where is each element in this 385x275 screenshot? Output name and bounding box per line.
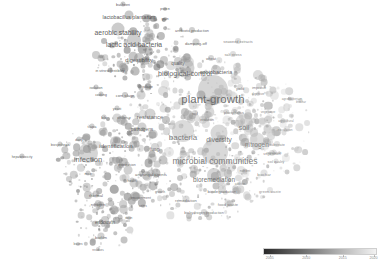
term-label: expression bbox=[118, 164, 135, 168]
term-label: thermal bbox=[89, 194, 103, 198]
term-label: yield bbox=[236, 87, 244, 91]
term-label: remediation bbox=[175, 199, 197, 203]
term-label: in vitro digestibility bbox=[95, 70, 124, 74]
term-label: environment bbox=[131, 197, 151, 201]
term-label: aerobic stability bbox=[95, 30, 142, 37]
term-label: antibiotic production bbox=[175, 30, 209, 34]
term-label: fungi bbox=[150, 148, 160, 153]
term-label: biohydrogen production bbox=[184, 212, 224, 216]
term-label: biological-control bbox=[158, 70, 212, 77]
term-label: microbial communities bbox=[172, 157, 257, 166]
term-label: protein bbox=[160, 8, 170, 11]
term-label: salt stress bbox=[224, 54, 241, 58]
term-label: soil bbox=[239, 124, 250, 131]
term-label: nutrient bbox=[240, 170, 251, 173]
term-label: diversity bbox=[206, 136, 232, 143]
term-label: identification bbox=[99, 143, 132, 149]
term-label: bile bbox=[101, 117, 107, 121]
term-label: lactic acid bacteria bbox=[106, 42, 162, 49]
term-label: regulation bbox=[267, 152, 282, 155]
term-label: toxin bbox=[126, 217, 133, 220]
colorbar-tick-label: 2015 bbox=[339, 256, 347, 260]
term-label: buchneri bbox=[116, 4, 130, 8]
term-label: vegetation bbox=[263, 153, 281, 157]
term-label: pathogens bbox=[131, 128, 153, 133]
term-label: wheat bbox=[206, 58, 216, 62]
term-label: substrate bbox=[269, 144, 285, 148]
term-label: digestive bbox=[252, 93, 265, 96]
term-label: growth bbox=[155, 191, 165, 194]
term-label: cooking bbox=[95, 94, 107, 97]
term-label: dairy bbox=[75, 139, 82, 142]
term-label: soil bbox=[192, 113, 198, 117]
term-label: biochar bbox=[296, 101, 306, 104]
term-label: damping-off bbox=[185, 42, 207, 46]
term-label: azotobacteria bbox=[200, 70, 232, 75]
term-label: mice bbox=[84, 173, 91, 176]
term-label: hepatotoxicity bbox=[12, 156, 33, 159]
term-label: isolation bbox=[89, 87, 102, 91]
colorbar-gradient bbox=[263, 248, 377, 255]
term-label: infection bbox=[74, 156, 102, 164]
term-label: antifungal agents bbox=[135, 173, 167, 177]
term-label: phosphorus bbox=[224, 112, 244, 116]
colorbar-tick-label: 2020 bbox=[370, 256, 378, 260]
term-label: agricultural bbox=[278, 120, 294, 123]
term-label: virulence bbox=[117, 117, 131, 120]
term-label: users bbox=[139, 205, 147, 208]
term-label: improve bbox=[252, 86, 266, 90]
term-label: bacteria bbox=[169, 134, 197, 142]
term-label: yeast bbox=[113, 108, 122, 112]
term-label: silage bbox=[143, 86, 153, 90]
term-label: grain bbox=[161, 18, 168, 21]
term-label: food waste bbox=[218, 203, 238, 207]
term-label: nitrogen bbox=[91, 203, 105, 207]
term-label: health bbox=[127, 180, 136, 183]
term-label: leaves bbox=[73, 243, 82, 246]
term-label: nitrogen bbox=[245, 142, 269, 149]
term-label: agrobacterium bbox=[282, 98, 302, 101]
term-label: tilapia bbox=[88, 126, 97, 129]
term-label: plant-growth bbox=[181, 94, 244, 106]
term-label: lactobacillus plantarum bbox=[103, 15, 156, 20]
term-label: seaweed extracts bbox=[223, 41, 253, 45]
term-label: addition bbox=[235, 183, 246, 186]
term-label: residues bbox=[92, 249, 103, 252]
term-label: biodegradation bbox=[207, 190, 236, 194]
term-label: evolution bbox=[200, 119, 214, 122]
term-label: quality bbox=[171, 62, 184, 67]
term-label: green waste bbox=[259, 190, 281, 194]
term-label: inoculation bbox=[277, 129, 292, 132]
term-label: resistance bbox=[137, 115, 163, 121]
year-colorbar-legend: 2005201020152020 bbox=[263, 248, 377, 268]
label-layer: plant-growthmicrobial communitiesbacteri… bbox=[0, 0, 385, 275]
term-label: bioremediation bbox=[193, 177, 235, 183]
term-label: endotoxin bbox=[95, 221, 115, 226]
term-label: soil quality bbox=[268, 161, 285, 165]
term-label: biochar bbox=[257, 173, 271, 177]
term-label: corn silage bbox=[116, 95, 134, 99]
term-label: biosynthesis bbox=[51, 144, 70, 147]
term-cooccurrence-map: plant-growthmicrobial communitiesbacteri… bbox=[0, 0, 385, 275]
term-label: digestibility bbox=[125, 58, 152, 64]
term-label: vegetative bbox=[261, 111, 276, 114]
term-label: biofilm bbox=[95, 236, 107, 240]
colorbar-tick-label: 2010 bbox=[302, 256, 310, 260]
colorbar-tick-label: 2005 bbox=[266, 256, 274, 260]
